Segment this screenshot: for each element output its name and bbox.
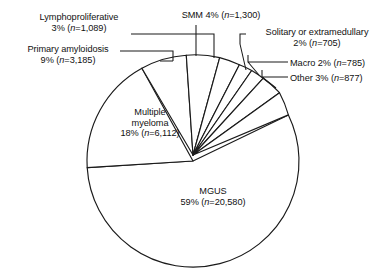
pie-label-solitary-extramedullary-name: Solitary or extramedullary [244,27,390,38]
pie-label-primary-amyloidosis-value: 9% (n=3,185) [2,55,134,66]
pie-label-lymphoproliferative: Lymphoproliferative 3% (n=1,089) [14,12,144,33]
pie-label-solitary-extramedullary-value: 2% (n=705) [244,38,390,49]
pie-label-smm-value: SMM 4% (n=1,300) [160,10,282,21]
pie-label-mgus-value: 59% (n=20,580) [158,197,268,208]
pie-label-multiple-myeloma-value: 18% (n=6,112) [98,128,202,139]
pie-label-macro-value: Macro 2% (n=785) [290,58,390,69]
pie-label-lymphoproliferative-name: Lymphoproliferative [14,12,144,23]
pie-label-primary-amyloidosis-name: Primary amyloidosis [2,44,134,55]
pie-label-solitary-extramedullary: Solitary or extramedullary 2% (n=705) [244,27,390,48]
pie-label-macro: Macro 2% (n=785) [290,58,390,69]
pie-label-mgus: MGUS 59% (n=20,580) [158,186,268,207]
pie-label-other-value: Other 3% (n=877) [290,73,390,84]
pie-chart-figure: Lymphoproliferative 3% (n=1,089) Primary… [0,0,390,279]
pie-label-multiple-myeloma-name-1: Multiple [98,107,202,118]
pie-label-multiple-myeloma-name-2: myeloma [98,118,202,129]
pie-label-smm: SMM 4% (n=1,300) [160,10,282,21]
pie-label-multiple-myeloma: Multiple myeloma 18% (n=6,112) [98,107,202,139]
pie-label-primary-amyloidosis: Primary amyloidosis 9% (n=3,185) [2,44,134,65]
pie-label-lymphoproliferative-value: 3% (n=1,089) [14,23,144,34]
pie-label-mgus-name: MGUS [158,186,268,197]
pie-slices [87,55,299,267]
pie-label-other: Other 3% (n=877) [290,73,390,84]
